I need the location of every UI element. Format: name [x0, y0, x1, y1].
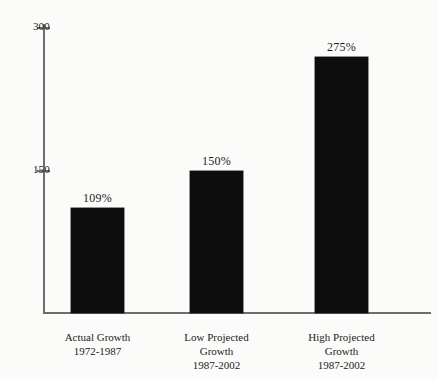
x-category-line-2: Growth — [156, 344, 277, 358]
x-category-line-1: High Projected — [281, 330, 402, 344]
bar-low-projected-growth — [190, 171, 243, 313]
x-category-label-low-projected-growth: Low Projected Growth 1987-2002 — [156, 330, 277, 372]
x-category-line-3: 1987-2002 — [156, 358, 277, 372]
x-category-label-high-projected-growth: High Projected Growth 1987-2002 — [281, 330, 402, 372]
bar-value-actual-growth: 109% — [62, 192, 133, 204]
x-category-line-2: 1972-1987 — [37, 344, 158, 358]
x-category-label-actual-growth: Actual Growth 1972-1987 — [37, 330, 158, 358]
bar-actual-growth — [71, 208, 124, 313]
y-tick-label-150: 150 — [20, 164, 50, 175]
bar-high-projected-growth — [315, 57, 368, 313]
x-category-line-2: Growth — [281, 344, 402, 358]
x-category-line-3: 1987-2002 — [281, 358, 402, 372]
x-category-line-1: Actual Growth — [37, 330, 158, 344]
y-tick-300: 300 — [0, 27, 50, 29]
bar-value-high-projected-growth: 275% — [306, 41, 377, 53]
y-tick-label-300: 300 — [20, 21, 50, 32]
bar-chart: 300 150 109% Actual Growth 1972-1987 150… — [0, 0, 438, 380]
x-category-line-1: Low Projected — [156, 330, 277, 344]
y-tick-150: 150 — [0, 170, 50, 172]
bar-value-low-projected-growth: 150% — [181, 155, 252, 167]
